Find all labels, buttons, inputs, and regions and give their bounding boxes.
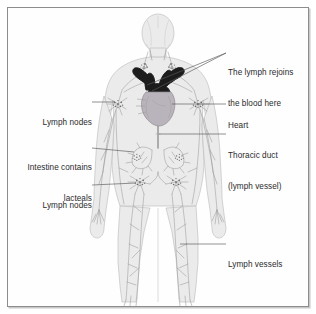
label-thoracic-duct-line1: Thoracic duct xyxy=(228,151,281,161)
label-thoracic-duct-line2: (lymph vessel) xyxy=(228,182,281,192)
label-lymph-nodes-upper-line1: Lymph nodes xyxy=(43,118,92,128)
label-lymph-vessels-line1: Lymph vessels xyxy=(228,260,283,270)
label-lymph-vessels: Lymph vessels xyxy=(228,239,283,291)
lymphatic-system-figure: The lymph rejoins the blood here Heart T… xyxy=(0,0,316,314)
label-lymph-rejoins-line1: The lymph rejoins xyxy=(228,68,293,78)
label-intestine-lacteals-line1: Intestine contains xyxy=(27,163,92,173)
label-lymph-nodes-lower: Lymph nodes xyxy=(43,180,92,232)
label-thoracic-duct: Thoracic duct (lymph vessel) xyxy=(228,130,281,213)
label-lymph-nodes-lower-line1: Lymph nodes xyxy=(43,201,92,211)
